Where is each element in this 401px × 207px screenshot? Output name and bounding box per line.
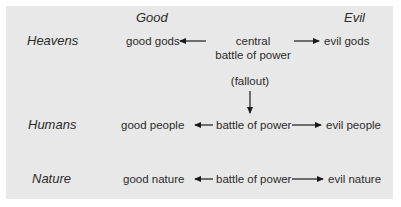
arrows-layer [0, 0, 401, 207]
